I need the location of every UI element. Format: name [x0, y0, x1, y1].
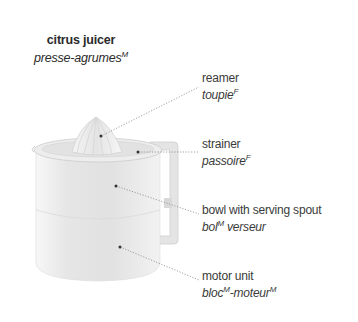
dot-motor — [119, 246, 122, 249]
label-bowl-french: bolM verseur — [202, 219, 321, 236]
gender-marker: F — [234, 87, 239, 96]
reamer — [72, 117, 122, 156]
label-strainer: strainer passoireF — [202, 136, 250, 170]
title-english: citrus juicer — [20, 33, 142, 47]
dot-reamer — [100, 135, 103, 138]
label-strainer-french: passoireF — [202, 153, 250, 170]
citrus-juicer-illustration — [0, 0, 358, 322]
juicer-body — [36, 150, 160, 281]
label-reamer-french: toupieF — [202, 87, 239, 104]
dot-bowl — [115, 185, 118, 188]
dot-strainer — [137, 151, 140, 154]
title-french: presse-agrumesM — [20, 51, 142, 65]
label-strainer-english: strainer — [202, 136, 250, 153]
label-motor-french: blocM-moteurM — [202, 285, 276, 302]
label-bowl-english: bowl with serving spout — [202, 202, 321, 219]
label-reamer: reamer toupieF — [202, 70, 239, 104]
label-motor-english: motor unit — [202, 268, 276, 285]
gender-marker: M — [270, 285, 276, 294]
label-reamer-english: reamer — [202, 70, 239, 87]
label-motor-unit: motor unit blocM-moteurM — [202, 268, 276, 302]
label-bowl: bowl with serving spout bolM verseur — [202, 202, 321, 236]
gender-marker: M — [122, 50, 128, 59]
gender-marker: F — [246, 153, 251, 162]
leader-line-reamer — [101, 87, 199, 136]
